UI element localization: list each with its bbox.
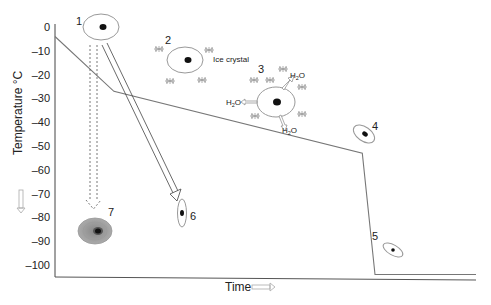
nucleus [391,248,395,252]
y-tick-label: –60 [32,164,50,176]
slow-path-dashed-arrow [86,45,101,209]
cell-label-1: 1 [76,15,82,27]
nucleus [100,24,107,30]
cell-label-6: 6 [190,210,196,222]
y-tick-label: –40 [32,116,50,128]
y-tick-label: –70 [32,188,50,200]
water-label: H2O [290,71,305,81]
nucleus [180,210,184,216]
y-tick-label: –100 [26,259,50,271]
cell-2: 2 Ice crystal [154,34,249,84]
y-tick-label: –80 [32,211,50,223]
y-axis-arrow-icon [17,190,25,213]
cell-label-5: 5 [372,230,378,242]
nucleus [273,99,281,106]
y-axis-label: Temperature °C [11,71,25,155]
x-axis-label: Time [225,280,252,294]
cell-label-7: 7 [108,206,114,218]
ice-crystal-label: Ice crystal [213,55,249,64]
freezing-diagram: 0–10–20–30–40–50–60–70–80–90–100 Tempera… [0,0,491,305]
cell-5: 5 [372,230,405,260]
cell-6: 6 [178,199,197,227]
water-label: H2O [226,98,241,108]
cooling-curve [55,37,476,275]
cell-label-3: 3 [258,63,264,75]
cell-label-4: 4 [372,120,378,132]
y-tick-label: –10 [32,45,50,57]
cell-label-2: 2 [165,34,171,46]
y-tick-label: –90 [32,235,50,247]
y-tick-label: –20 [32,69,50,81]
y-tick-label: –50 [32,140,50,152]
nucleus [95,229,101,234]
cell-3: 3 H2O H2O H2O [226,63,307,136]
cell-1: 1 [76,14,119,40]
x-axis-arrow-icon [252,283,275,291]
cell-7: 7 [78,206,114,244]
y-axis-label-group: Temperature °C [11,71,25,155]
water-label: H2O [282,126,297,136]
y-tick-label: –30 [32,92,50,104]
nucleus [185,57,192,63]
cell-4: 4 [350,120,378,147]
x-axis [55,277,476,280]
y-tick-label: 0 [44,21,50,33]
